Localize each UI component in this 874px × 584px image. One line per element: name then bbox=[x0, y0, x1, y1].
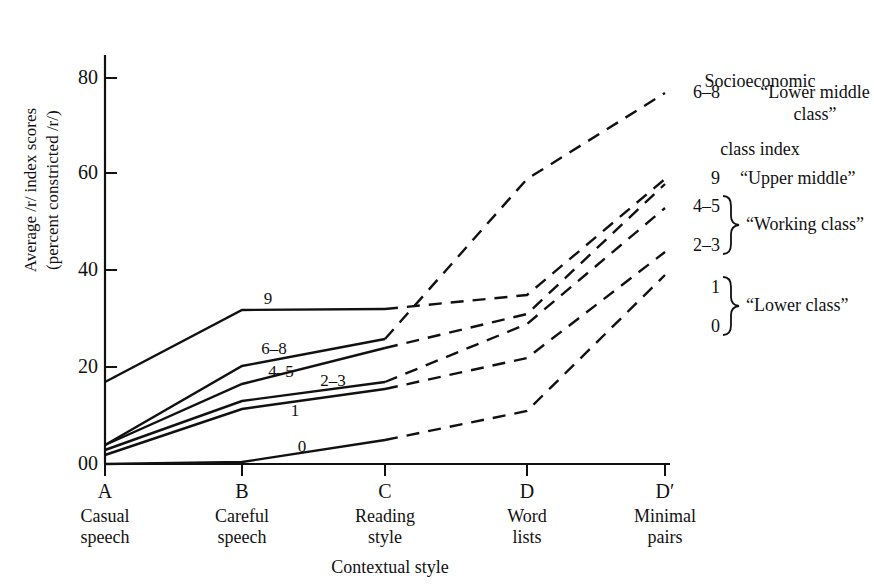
inline-key-4-5: 4–5 bbox=[261, 362, 301, 382]
legend-brace-lower bbox=[723, 277, 739, 335]
x-tick-letter-D-prime: D′ bbox=[635, 480, 695, 503]
legend-label-lower-class: “Lower class” bbox=[746, 295, 874, 317]
series-line-6-8-solid bbox=[105, 339, 385, 445]
series-line-9-dashed bbox=[385, 179, 665, 309]
y-axis-title-line2: (percent constricted /r/) bbox=[42, 60, 64, 320]
inline-key-2-3: 2–3 bbox=[313, 371, 353, 391]
x-tick-label-minimal-pairs: Minimal pairs bbox=[620, 506, 710, 548]
x-axis-title: Contextual style bbox=[295, 557, 485, 578]
legend-key-9: 9 bbox=[676, 168, 720, 189]
x-tick-marks bbox=[105, 464, 665, 476]
inline-key-9: 9 bbox=[253, 289, 283, 309]
x-tick-letter-D: D bbox=[497, 480, 557, 503]
x-tick-label-careful-speech: Careful speech bbox=[197, 506, 287, 548]
legend-label-lower-middle-class: “Lower middle class” bbox=[740, 82, 874, 125]
legend-label-working-class: “Working class” bbox=[746, 214, 874, 236]
y-axis-title: Average /r/ index scores (percent constr… bbox=[20, 60, 64, 320]
inline-key-0: 0 bbox=[287, 437, 317, 457]
legend-key-6-8: 6–8 bbox=[676, 82, 720, 103]
series-line-4-5-solid bbox=[105, 348, 385, 445]
y-tick-label-00: 00 bbox=[56, 452, 98, 475]
y-axis-title-line1: Average /r/ index scores bbox=[20, 60, 42, 320]
x-tick-label-word-lists: Word lists bbox=[482, 506, 572, 548]
series-line-0-solid bbox=[105, 440, 385, 464]
inline-key-1: 1 bbox=[280, 401, 310, 421]
legend-key-4-5: 4–5 bbox=[676, 196, 720, 217]
series-line-4-5-dashed bbox=[385, 184, 665, 348]
x-tick-label-reading-style: Reading style bbox=[340, 506, 430, 548]
series-lines bbox=[105, 93, 665, 464]
legend-title-line2: class index bbox=[655, 138, 865, 161]
legend-key-2-3: 2–3 bbox=[676, 235, 720, 256]
series-line-1-dashed bbox=[385, 252, 665, 389]
legend-key-1: 1 bbox=[676, 277, 720, 298]
x-tick-letter-C: C bbox=[355, 480, 415, 503]
y-tick-label-20: 20 bbox=[56, 355, 98, 378]
x-tick-letter-B: B bbox=[212, 480, 272, 503]
y-tick-marks bbox=[105, 78, 117, 464]
x-tick-label-casual-speech: Casual speech bbox=[60, 506, 150, 548]
x-tick-letter-A: A bbox=[75, 480, 135, 503]
inline-key-6-8: 6–8 bbox=[254, 339, 294, 359]
legend-key-0: 0 bbox=[676, 316, 720, 337]
series-line-6-8-dashed bbox=[385, 93, 665, 339]
legend-label-upper-middle: “Upper middle” bbox=[740, 168, 874, 190]
